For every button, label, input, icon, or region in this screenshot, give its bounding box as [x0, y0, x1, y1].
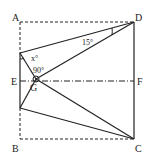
label-angle-x: x° — [31, 54, 38, 63]
label-angle-15: 15° — [82, 38, 93, 47]
line-g-c — [36, 79, 134, 139]
label-f: F — [137, 76, 143, 87]
geometry-figure: A D B C E F G x° 90° 15° — [0, 0, 150, 160]
line-p-d — [20, 22, 134, 53]
label-b: B — [12, 143, 19, 154]
line-g-d — [36, 22, 134, 79]
label-e: E — [11, 76, 17, 87]
label-a: A — [12, 12, 20, 23]
label-angle-90: 90° — [33, 66, 44, 75]
label-d: D — [135, 12, 142, 23]
diagram-canvas: A D B C E F G x° 90° 15° — [0, 0, 150, 160]
line-q-c — [20, 108, 134, 139]
label-c: C — [135, 143, 142, 154]
label-g: G — [30, 82, 37, 93]
